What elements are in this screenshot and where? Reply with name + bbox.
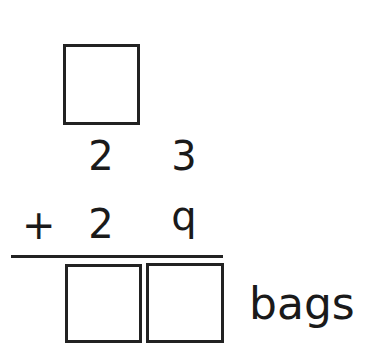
carry-answer-box[interactable] xyxy=(63,44,140,125)
addend1-tens-digit: 2 xyxy=(86,136,116,176)
answer-ones-box[interactable] xyxy=(146,263,224,343)
addend1-ones-digit: 3 xyxy=(169,136,199,176)
sum-line xyxy=(11,255,223,258)
answer-tens-box[interactable] xyxy=(65,264,142,343)
plus-sign: + xyxy=(22,205,52,245)
unit-label: bags xyxy=(249,282,355,326)
addend2-ones-digit: q xyxy=(169,196,199,236)
addend2-tens-digit: 2 xyxy=(86,204,116,244)
